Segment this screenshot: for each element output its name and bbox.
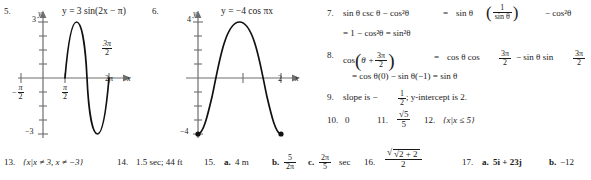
problem-5-equation: y = 3 sin(2x − π) <box>62 6 126 16</box>
problem-8-lhs-frac-num: 3π <box>375 52 387 60</box>
graph-6-endpoint-left <box>195 131 200 136</box>
problem-16-frac-den: 2 <box>385 159 422 169</box>
problem-15-part-b-label: b. <box>272 157 279 167</box>
problem-7-number: 7. <box>327 8 334 18</box>
problem-13-number: 13. <box>4 157 15 167</box>
threepi-den: 2 <box>102 48 112 57</box>
problem-16-frac-num: √2 + 2 <box>385 149 422 159</box>
problem-15-b-den: 2π <box>284 162 296 171</box>
problem-17-number: 17. <box>462 157 473 167</box>
problem-8-lhs-fn: cos <box>343 55 355 65</box>
neg-pi-den: 2 <box>18 92 24 101</box>
problem-15-part-c-unit: sec <box>339 157 351 167</box>
graph-6-endpoint-right <box>278 131 283 136</box>
graph-5-x-axis-label: x <box>127 74 131 83</box>
paren-close: ) <box>513 3 519 22</box>
problem-12-number: 12. <box>424 115 435 125</box>
problem-11-number: 11. <box>377 115 388 125</box>
problem-8-equals: = <box>434 52 439 62</box>
problem-8-lhs-inner: θ + <box>361 55 374 65</box>
problem-8-rhs-a-frac: 3π2 <box>498 47 512 68</box>
problem-15-number: 15. <box>204 157 215 167</box>
problem-5-number: 5. <box>4 6 11 16</box>
problem-14-answer: 1.5 sec; 44 ft <box>136 157 183 167</box>
problem-9-frac-den: 2 <box>398 98 406 107</box>
problem-8-rhs-a-den: 2 <box>499 58 511 67</box>
problem-6-equation: y = −4 cos πx <box>221 6 273 16</box>
outer-radical-icon: √2 + 2 <box>387 149 420 159</box>
problem-8-lhs-frac-den: 2 <box>375 60 387 69</box>
problem-16-number: 16. <box>364 157 375 167</box>
problem-8-rhs-b-frac: 3π2 <box>572 47 586 68</box>
problem-8-line2: = cos θ(0) − sin θ(−1) = sin θ <box>352 71 457 81</box>
pi-den: 2 <box>62 92 68 101</box>
graph-6-ylabel-neg4: −4 <box>180 127 189 136</box>
problem-7-frac-den: sin θ <box>493 12 512 21</box>
threepi-num: 3π <box>102 40 112 48</box>
problem-7-line1-equals: = <box>443 8 448 18</box>
graph-6-y-axis-label: y <box>193 9 197 18</box>
problem-17-part-a-label: a. <box>482 157 489 167</box>
problem-17-part-a: 5i + 23j <box>493 157 522 167</box>
problem-8-number: 8. <box>327 50 334 60</box>
graph-5-xlabel-2pi: 2π <box>105 74 113 83</box>
problem-11-fraction: √55 <box>396 108 411 129</box>
problem-8-rhs-b-den: 2 <box>573 58 585 67</box>
problem-8-lhs: cos(θ +3π2) <box>343 50 394 72</box>
problem-15-part-a-label: a. <box>224 157 231 167</box>
problem-15-c-num: 2π <box>319 154 331 162</box>
problem-11-frac-num: √5 <box>397 110 410 119</box>
problem-7-frac-num: 1 <box>493 4 512 12</box>
problem-8-rhs-a-num: 3π <box>499 50 511 58</box>
graph-5-ylabel-3: 3 <box>32 15 36 24</box>
problem-7-line1-lhs: sin θ csc θ − cos²θ <box>343 8 409 18</box>
problem-7-line1-mid: sin θ <box>456 8 473 18</box>
problem-6-graph <box>168 6 308 138</box>
problem-12-answer: {x|x ≤ 5} <box>443 115 475 125</box>
problem-7-line1-tail: − cos²θ <box>545 8 571 18</box>
problem-13-answer: {x|x ≠ 3, x ≠ −3} <box>23 157 83 167</box>
problem-15-c-den: 5 <box>319 162 331 171</box>
problem-8-rhs-minus: − sin θ sin <box>516 52 553 62</box>
problem-17-part-b: −12 <box>560 157 574 167</box>
problem-16-inner: √2 + 2 <box>393 149 420 159</box>
problem-8-rhs-a: cos θ cos <box>447 52 480 62</box>
problem-6-number: 6. <box>152 6 159 16</box>
problem-10-number: 10. <box>327 115 338 125</box>
problem-10-answer: 0 <box>345 115 350 125</box>
problem-16-fraction: √2 + 2 2 <box>384 148 423 169</box>
problem-9-text-b: ; y-intercept is 2. <box>406 92 467 102</box>
graph-6-xlabel-2: 2 <box>278 74 282 83</box>
graph-6-svg <box>168 6 308 138</box>
problem-11-frac-den: 5 <box>397 119 410 129</box>
graph-5-xlabel-pi-over-2: π2 <box>61 84 69 101</box>
problem-15-part-b-fraction: 52π <box>283 151 297 172</box>
graph-5-svg <box>18 6 143 138</box>
problem-15-part-c-fraction: 2π5 <box>318 151 332 172</box>
graph-6-ylabel-4: 4 <box>187 15 191 24</box>
paren-open: ( <box>486 3 492 22</box>
graph-5-xlabel-3pi-over-2: 3π2 <box>101 40 113 57</box>
problem-14-number: 14. <box>117 157 128 167</box>
problem-7-line2: = 1 − cos²θ = sin²θ <box>343 28 411 38</box>
problem-17-part-b-label: b. <box>549 157 556 167</box>
answer-key-page: 5. y 3 −3 x −π2 <box>0 0 591 180</box>
graph-6-x-axis-label: x <box>295 74 299 83</box>
neg-pi-num: π <box>18 84 24 92</box>
problem-5-graph <box>18 6 143 138</box>
paren-close: ) <box>388 50 394 71</box>
problem-7-fraction-group: (1sin θ) <box>486 3 519 23</box>
pi-num: π <box>62 84 68 92</box>
problem-8-rhs-b-num: 3π <box>573 50 585 58</box>
problem-15-part-a: 4 m <box>235 157 249 167</box>
graph-5-y-axis-label: y <box>38 9 42 18</box>
problem-15-part-c-label: c. <box>308 157 314 167</box>
graph-5-ylabel-neg3: −3 <box>25 127 34 136</box>
problem-9-number: 9. <box>327 92 334 102</box>
graph-5-xlabel-neg-pi-over-2: −π2 <box>12 84 25 101</box>
problem-9-frac-num: 1 <box>398 90 406 98</box>
problem-9-text-a: slope is − <box>343 92 378 102</box>
problem-15-b-num: 5 <box>284 154 296 162</box>
